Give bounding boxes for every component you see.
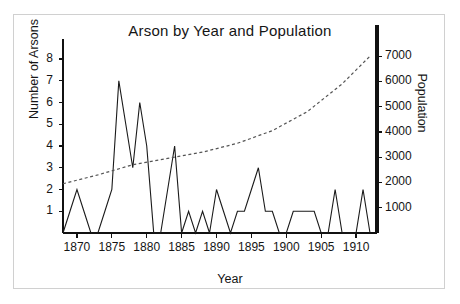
y-tick-label-left: 6	[39, 95, 53, 109]
y-tick-label-left: 1	[39, 203, 53, 217]
y-tick-label-right: 7000	[385, 48, 425, 62]
y-tick-label-right: 4000	[385, 124, 425, 138]
y-tick-label-left: 8	[39, 51, 53, 65]
data-series	[63, 56, 370, 233]
chart-figure: Arson by Year and Population Number of A…	[0, 0, 460, 304]
population-line	[63, 56, 370, 184]
y-tick-label-left: 2	[39, 182, 53, 196]
arson-line	[63, 81, 370, 233]
y-tick-label-right: 1000	[385, 200, 425, 214]
y-tick-label-right: 2000	[385, 174, 425, 188]
y-tick-label-left: 4	[39, 138, 53, 152]
x-tick-label: 1910	[336, 240, 376, 254]
axis-ticks	[59, 56, 382, 238]
y-tick-label-right: 3000	[385, 149, 425, 163]
y-tick-label-right: 5000	[385, 99, 425, 113]
y-tick-label-left: 3	[39, 160, 53, 174]
y-tick-label-left: 7	[39, 73, 53, 87]
y-tick-label-left: 5	[39, 116, 53, 130]
y-tick-label-right: 6000	[385, 73, 425, 87]
